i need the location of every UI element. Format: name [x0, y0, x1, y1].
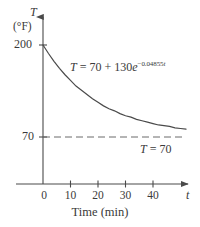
y-tick-label-200: 200 [14, 38, 32, 50]
asymptote-value: = 70 [147, 142, 172, 156]
equation-body: = 70 + 130 [77, 60, 133, 74]
x-axis-title: Time (min) [0, 206, 200, 219]
y-tick-label-70: 70 [22, 130, 34, 142]
equation-variable: T [70, 60, 77, 74]
y-axis-unit-label: (°F) [13, 21, 32, 33]
x-tick-label-20: 20 [87, 190, 109, 202]
curve-equation-annotation: T = 70 + 130e−0.04855t [70, 61, 165, 73]
x-axis-symbol: t [186, 189, 189, 201]
x-tick-label-10: 10 [60, 190, 82, 202]
x-tick-label-0: 0 [33, 190, 55, 202]
x-tick-label-40: 40 [142, 190, 164, 202]
exponent-variable: t [163, 60, 165, 68]
asymptote-annotation: T = 70 [140, 143, 171, 155]
exponent-value: 0.04855 [141, 60, 163, 68]
equation-exponent: −0.04855t [138, 60, 166, 68]
cooling-curve-figure: T (°F) 200 70 0 10 20 30 40 t Time (min)… [0, 0, 200, 227]
cooling-curve-path [43, 45, 186, 129]
x-tick-label-30: 30 [115, 190, 137, 202]
y-axis-symbol: T [30, 6, 37, 18]
asymptote-variable: T [140, 142, 147, 156]
